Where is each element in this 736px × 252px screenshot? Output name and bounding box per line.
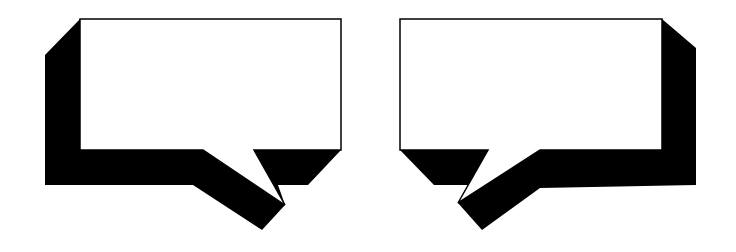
left-speech-bubble (45, 19, 341, 230)
speech-bubbles-illustration (0, 0, 736, 252)
right-speech-bubble (400, 19, 696, 230)
